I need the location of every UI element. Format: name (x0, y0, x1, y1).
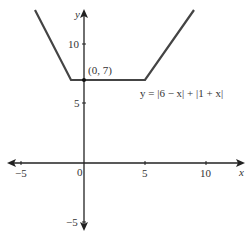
x-axis-label: x (238, 166, 244, 178)
y-tick-minus5: −5 (66, 216, 78, 228)
point-marker (82, 78, 86, 82)
x-tick-5: 5 (142, 167, 148, 179)
origin-label: 0 (77, 166, 83, 178)
function-curve (35, 10, 194, 80)
y-axis-label: y (74, 8, 80, 20)
x-tick-minus5: −5 (15, 167, 27, 179)
graph-svg: y x 0 −5 5 10 10 5 −5 (0, 7) y = |6 − x|… (0, 0, 251, 237)
y-axis (80, 9, 88, 231)
x-axis (7, 159, 245, 167)
graph-figure: y x 0 −5 5 10 10 5 −5 (0, 7) y = |6 − x|… (0, 0, 251, 237)
x-tick-10: 10 (200, 167, 212, 179)
point-label: (0, 7) (88, 64, 112, 77)
equation-label: y = |6 − x| + |1 + x| (140, 87, 223, 99)
y-tick-5: 5 (74, 97, 80, 109)
y-tick-10: 10 (68, 38, 80, 50)
